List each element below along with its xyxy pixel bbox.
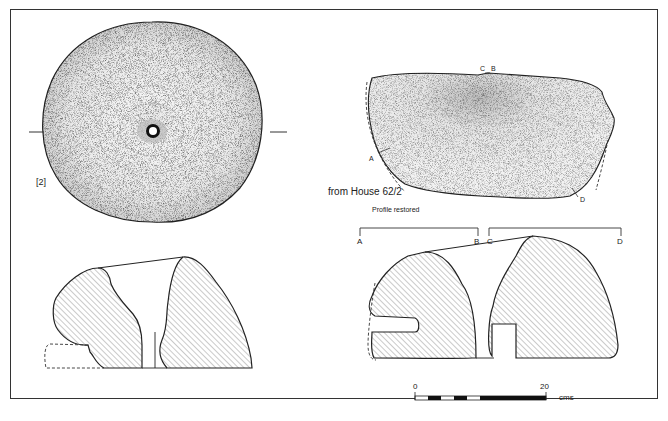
section-bracket-cd bbox=[489, 228, 621, 236]
profile-note: Profile restored bbox=[372, 206, 419, 213]
section-label-b: B bbox=[474, 237, 479, 246]
plan-marker-d: D bbox=[580, 196, 585, 203]
plan-marker-b: B bbox=[491, 65, 496, 72]
disc-plan-view bbox=[29, 22, 287, 222]
item-number-label: [2] bbox=[36, 177, 46, 187]
illustration-canvas bbox=[0, 0, 668, 421]
disc-section-profile bbox=[45, 257, 252, 368]
plan-marker-a: A bbox=[369, 155, 374, 162]
scale-min-label: 0 bbox=[413, 382, 417, 391]
section-label-a: A bbox=[357, 237, 362, 246]
provenance-label: from House 62/2 bbox=[328, 186, 402, 197]
scale-max-label: 20 bbox=[540, 382, 549, 391]
scale-bar bbox=[415, 392, 546, 400]
fragment-section-profile bbox=[360, 228, 621, 360]
scale-unit-label: cms bbox=[559, 393, 574, 402]
section-label-d: D bbox=[617, 237, 623, 246]
section-bracket-ab bbox=[360, 228, 478, 236]
section-label-c: C bbox=[487, 237, 493, 246]
fragment-plan-view bbox=[366, 73, 614, 198]
plan-marker-c: C bbox=[480, 65, 485, 72]
